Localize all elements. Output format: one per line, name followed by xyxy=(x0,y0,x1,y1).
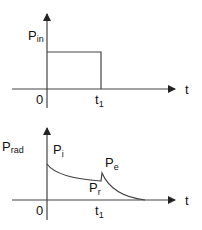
input-power-graph: Pin t 0 t1 xyxy=(12,14,189,109)
radiated-power-graph: Prad Pi Pe Pr t 0 t1 xyxy=(2,128,189,220)
p-r-label: Pr xyxy=(89,180,101,197)
diagram: Pin t 0 t1 Prad Pi Pe Pr t 0 t1 xyxy=(0,0,202,230)
top-t1-label: t1 xyxy=(95,92,104,109)
top-t-label: t xyxy=(185,82,189,97)
top-origin-label: 0 xyxy=(36,92,43,107)
bottom-t-label: t xyxy=(185,193,189,208)
p-i-label: Pi xyxy=(53,142,64,159)
bottom-origin-label: 0 xyxy=(36,203,43,218)
p-in-label: Pin xyxy=(28,28,44,44)
p-rad-label: Prad xyxy=(2,139,24,155)
bottom-t1-label: t1 xyxy=(95,203,104,220)
p-e-label: Pe xyxy=(105,155,119,172)
input-pulse xyxy=(47,52,101,89)
